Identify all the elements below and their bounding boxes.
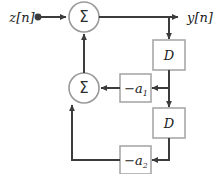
wire-delay-2-to-coef-a2 [152, 138, 169, 160]
adder-bottom-symbol: Σ [79, 81, 88, 96]
coef-a2-label: −a2 [124, 154, 148, 167]
input-signal-label: z[n] [9, 11, 34, 24]
delay-2-label: D [164, 117, 174, 130]
output-signal-label: y[n] [187, 11, 213, 24]
input-source-dot [35, 14, 42, 21]
coef-a1-label: −a1 [124, 82, 148, 95]
signal-flow-graph [0, 0, 221, 174]
coef-a1-prefix: −a [124, 81, 143, 96]
coef-a1-subscript: 1 [143, 89, 148, 98]
delay-1-label: D [164, 49, 174, 62]
coef-a2-prefix: −a [124, 153, 143, 168]
block-diagram-canvas: z[n] y[n] Σ Σ D D −a1 −a2 [0, 0, 221, 174]
wire-coef-a2-to-bottom-adder [72, 105, 120, 160]
coef-a2-subscript: 2 [143, 161, 148, 170]
adder-top-symbol: Σ [79, 10, 88, 25]
